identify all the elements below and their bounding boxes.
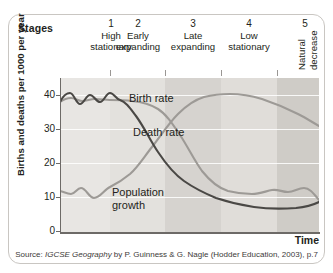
y-tick-label-0: 0 [33, 225, 55, 236]
stage-column-2: 2 Early expanding [110, 18, 166, 53]
population-growth-curve [60, 94, 319, 198]
y-tick-label-30: 30 [33, 123, 55, 134]
stage-name-line1: Early [110, 30, 166, 42]
stage-name-line2: expanding [165, 41, 221, 53]
population-growth-label-line2: growth [112, 199, 164, 212]
stage-divider-tick [221, 70, 222, 76]
death-rate-label: Death rate [133, 126, 184, 139]
source-caption: Source: IGCSE Geography by P. Guinness &… [0, 250, 333, 259]
stage-divider-tick [277, 70, 278, 76]
stage-number: 2 [110, 18, 166, 30]
stage-name-line2: stationary [221, 41, 277, 53]
y-axis-line [60, 78, 61, 233]
stages-header: Stages 1 High stationary 2 Early expandi… [0, 18, 333, 76]
y-axis-label: Births and deaths per 1000 per year [15, 30, 29, 176]
source-prefix: Source: [15, 250, 45, 259]
curves-svg [60, 78, 319, 232]
plot-area [60, 78, 319, 232]
y-tick-label-20: 20 [33, 157, 55, 168]
population-growth-label-line1: Population [112, 186, 164, 199]
stage-name-line1: Low [221, 30, 277, 42]
stage-column-4: 4 Low stationary [221, 18, 277, 53]
stage-number: 3 [165, 18, 221, 30]
stage-column-3: 3 Late expanding [165, 18, 221, 53]
source-title: IGCSE Geography [45, 250, 112, 259]
figure-demographic-transition-model: Stages 1 High stationary 2 Early expandi… [0, 0, 333, 273]
source-rest: by P. Guinness & G. Nagle (Hodder Educat… [112, 250, 318, 259]
stage-divider-tick [110, 70, 111, 76]
stage-number: 4 [221, 18, 277, 30]
stage-column-5: 5 Natural decrease [290, 18, 320, 30]
x-axis-label: Time [295, 234, 319, 246]
population-growth-label: Population growth [112, 186, 164, 211]
y-tick-label-10: 10 [33, 191, 55, 202]
stage-name-line2: decrease [308, 8, 324, 70]
x-axis-line [60, 232, 320, 234]
stage-divider-tick [165, 70, 166, 76]
stage-name-line2: expanding [110, 41, 166, 53]
stage-name-line1: Late [165, 30, 221, 42]
y-tick-label-40: 40 [33, 89, 55, 100]
birth-rate-label: Birth rate [129, 92, 174, 105]
